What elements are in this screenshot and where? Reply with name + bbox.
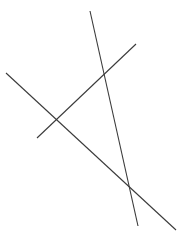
figure-background <box>0 0 180 239</box>
line-figure-svg <box>0 0 180 239</box>
figure-canvas <box>0 0 180 239</box>
